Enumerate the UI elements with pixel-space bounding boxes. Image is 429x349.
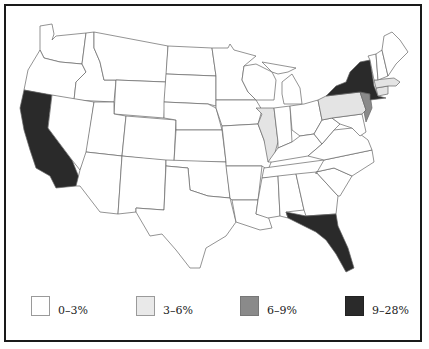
legend-swatch-9-28 <box>345 296 364 316</box>
state-wyoming <box>114 80 166 118</box>
state-colorado <box>122 116 176 162</box>
state-south-dakota <box>164 74 216 106</box>
legend: 0–3% 3–6% 6–9% 9–28% <box>0 294 429 334</box>
legend-item-9-28: 9–28% <box>345 296 409 316</box>
legend-item-0-3: 0–3% <box>31 296 88 316</box>
legend-item-6-9: 6–9% <box>240 296 297 316</box>
state-kansas <box>174 130 226 162</box>
legend-swatch-0-3 <box>31 296 50 316</box>
legend-swatch-3-6 <box>136 296 155 316</box>
state-north-dakota <box>166 46 216 76</box>
state-arizona <box>76 152 122 214</box>
state-washington <box>40 24 86 64</box>
legend-item-3-6: 3–6% <box>136 296 193 316</box>
legend-label: 0–3% <box>58 305 88 316</box>
state-new-mexico <box>118 156 166 214</box>
legend-label: 9–28% <box>372 305 409 316</box>
legend-label: 6–9% <box>267 305 297 316</box>
legend-label: 3–6% <box>163 305 193 316</box>
legend-swatch-6-9 <box>240 296 259 316</box>
state-montana <box>94 32 168 82</box>
state-arkansas <box>226 166 262 200</box>
state-florida <box>286 212 354 272</box>
state-iowa <box>216 100 262 126</box>
